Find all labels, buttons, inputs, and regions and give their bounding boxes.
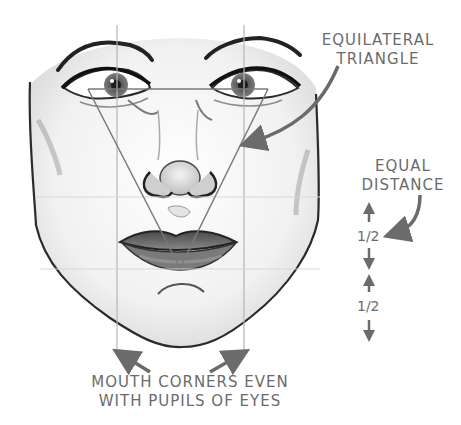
mouth-corner-arrows (124, 356, 238, 372)
distance-label-line2: DISTANCE (355, 176, 451, 195)
mouth-label-line2: WITH PUPILS OF EYES (70, 392, 310, 411)
face-proportions-illustration: EQUILATERAL TRIANGLE EQUAL DISTANCE 1/2 … (0, 0, 461, 425)
equal-distance-arrows (363, 202, 375, 342)
mouth-corners-label: MOUTH CORNERS EVEN WITH PUPILS OF EYES (70, 373, 310, 411)
triangle-label-line1: EQUILATERAL (313, 31, 443, 50)
lower-half-label: 1/2 (357, 298, 380, 314)
distance-pointer-arrow (396, 195, 420, 233)
triangle-label-line2: TRIANGLE (313, 50, 443, 69)
equilateral-triangle-label: EQUILATERAL TRIANGLE (313, 31, 443, 69)
upper-half-label: 1/2 (357, 228, 380, 244)
mouth-label-line1: MOUTH CORNERS EVEN (70, 373, 310, 392)
distance-label-line1: EQUAL (355, 157, 451, 176)
equal-distance-label: EQUAL DISTANCE (355, 157, 451, 195)
